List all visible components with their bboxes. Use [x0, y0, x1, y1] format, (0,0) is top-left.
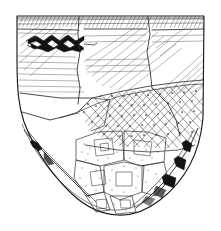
figure-root — [0, 0, 221, 231]
zone-lattice — [32, 72, 221, 178]
zone-rim-band — [18, 15, 208, 28]
zone-upper-body — [18, 26, 206, 94]
sherd-break-lines — [18, 17, 204, 136]
motif-zigzag-band — [26, 35, 97, 52]
vessel-line-drawing — [0, 0, 221, 231]
zone-lower-panels — [74, 131, 168, 214]
